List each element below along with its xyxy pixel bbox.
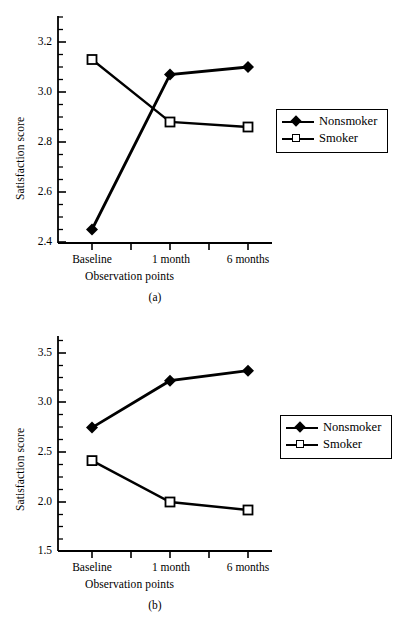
legend-label-smoker-a: Smoker (319, 132, 358, 145)
y-tick-label-a-4: 2.4 (20, 235, 52, 247)
y-tick-label-b-1: 3.0 (20, 395, 52, 407)
x-tick-label-a-0: Baseline (57, 253, 127, 265)
series-markers-nonsmoker-b (86, 365, 254, 434)
legend-marker-smoker-icon (282, 132, 314, 146)
legend-item-smoker-b: Smoker (286, 436, 384, 453)
x-tick-label-a-2: 6 months (212, 253, 284, 265)
series-line-nonsmoker-a (92, 67, 248, 230)
legend-label-nonsmoker-b: Nonsmoker (323, 421, 381, 434)
legend-item-nonsmoker-a: Nonsmoker (282, 113, 380, 130)
series-markers-smoker-a (88, 55, 253, 132)
y-axis-title-a: Satisfaction score (14, 117, 26, 200)
panel-caption-b: (b) (130, 599, 180, 611)
x-axis-title-a: Observation points (85, 270, 174, 282)
x-tick-label-a-1: 1 month (136, 253, 206, 265)
legend-a: Nonsmoker Smoker (276, 109, 388, 153)
legend-marker-nonsmoker-icon (286, 421, 318, 435)
y-tick-label-b-0: 3.5 (20, 346, 52, 358)
x-ticks-b (92, 551, 248, 558)
plot-area-a (0, 0, 394, 316)
legend-item-smoker-a: Smoker (282, 130, 380, 147)
panel-caption-a: (a) (130, 291, 180, 303)
series-markers-smoker-b (88, 456, 253, 514)
y-major-ticks-b (58, 353, 66, 551)
y-tick-label-a-0: 3.2 (20, 35, 52, 47)
y-tick-label-b-4: 1.5 (20, 544, 52, 556)
y-tick-label-a-1: 3.0 (20, 85, 52, 97)
y-major-ticks-a (58, 42, 66, 242)
x-ticks-a (92, 243, 248, 250)
legend-b: Nonsmoker Smoker (280, 415, 392, 459)
x-tick-label-b-2: 6 months (212, 561, 284, 573)
x-axis-title-b: Observation points (85, 578, 174, 590)
legend-item-nonsmoker-b: Nonsmoker (286, 419, 384, 436)
series-markers-nonsmoker-a (86, 61, 254, 236)
legend-label-smoker-b: Smoker (323, 438, 362, 451)
y-axis-title-b: Satisfaction score (14, 428, 26, 511)
legend-marker-smoker-icon (286, 438, 318, 452)
legend-marker-nonsmoker-icon (282, 115, 314, 129)
plot-area-b (0, 316, 394, 632)
chart-panel-b: 3.5 3.0 2.5 2.0 1.5 Baseline 1 month 6 m… (0, 316, 394, 632)
legend-label-nonsmoker-a: Nonsmoker (319, 115, 377, 128)
x-tick-label-b-1: 1 month (136, 561, 206, 573)
x-tick-label-b-0: Baseline (57, 561, 127, 573)
chart-panel-a: 3.2 3.0 2.8 2.6 2.4 Baseline 1 month 6 m… (0, 0, 394, 316)
